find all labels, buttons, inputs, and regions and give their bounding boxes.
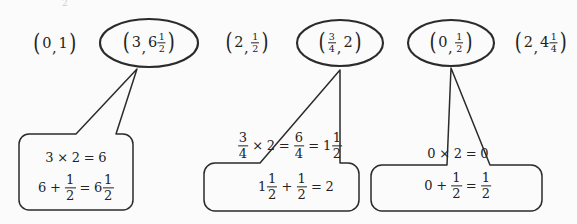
pair-comma: , xyxy=(244,41,250,56)
callout-3-line-1: 0 × 2 = 0 xyxy=(427,146,489,161)
right-paren: ) xyxy=(466,33,473,54)
expr-token: 0 xyxy=(424,179,432,194)
expr-token: 0 xyxy=(427,146,435,161)
pair-3q-2: ( 34 , 2 ) xyxy=(317,32,363,53)
plus-sign: + xyxy=(433,179,451,194)
pair-0-1-x: 0 xyxy=(42,36,52,51)
expr-token: 112 xyxy=(323,131,343,160)
fraction-one-half: 12 xyxy=(65,173,75,202)
left-paren: ( xyxy=(225,33,232,54)
callout-3-line-2: 0 + 12 = 12 xyxy=(424,171,492,200)
expr-token: 6 xyxy=(98,150,106,165)
multiplication-sign: × xyxy=(249,139,267,154)
fraction-three-quarters: 34 xyxy=(238,131,248,160)
right-paren: ) xyxy=(168,33,175,54)
pair-3-6half: ( 3 , 612 ) xyxy=(121,32,176,53)
expr-token: 2 xyxy=(326,180,334,195)
callout-2-line-1: 34 × 2 = 64 = 112 xyxy=(237,131,343,160)
left-paren: ( xyxy=(318,33,325,54)
equals-sign: = xyxy=(305,139,323,154)
expr-token: 3 xyxy=(45,150,53,165)
pair-2-4quart-y: 414 xyxy=(540,32,559,53)
pair-2-4quart-x: 2 xyxy=(523,36,533,51)
equals-sign: = xyxy=(275,139,293,154)
pair-comma: , xyxy=(533,41,539,56)
pair-3-6half-x: 3 xyxy=(131,36,141,51)
fraction-one-half: 12 xyxy=(481,171,491,200)
callout-1-line-1: 3 × 2 = 6 xyxy=(45,150,107,165)
multiplication-sign: × xyxy=(436,146,454,161)
fraction-one-half: 12 xyxy=(297,172,307,201)
expr-token: 2 xyxy=(72,150,80,165)
multiplication-sign: × xyxy=(54,150,72,165)
right-paren: ) xyxy=(70,33,77,54)
fraction-six-fourths: 64 xyxy=(294,131,304,160)
fraction-one-half: 12 xyxy=(103,173,113,202)
left-paren: ( xyxy=(123,33,130,54)
equals-sign: = xyxy=(462,146,480,161)
equals-sign: = xyxy=(462,179,480,194)
expr-token: 6 xyxy=(38,181,46,196)
pair-0-half: ( 0 , 12 ) xyxy=(428,32,474,53)
equals-sign: = xyxy=(76,181,94,196)
pair-0-1: ( 0 , 1 ) xyxy=(32,33,78,54)
pair-comma: , xyxy=(141,41,147,56)
equals-sign: = xyxy=(80,150,98,165)
fraction-one-half: 12 xyxy=(451,171,461,200)
pair-comma: , xyxy=(337,41,343,56)
expr-token: 0 xyxy=(480,146,488,161)
pair-2-half: ( 2 , 12 ) xyxy=(224,32,270,53)
pair-3q-2-x: 34 xyxy=(327,32,337,53)
pair-0-1-y: 1 xyxy=(58,36,68,51)
fraction-one-quarter: 14 xyxy=(550,32,558,53)
fraction-one-half: 12 xyxy=(332,131,342,160)
plus-sign: + xyxy=(46,181,64,196)
pair-comma: , xyxy=(52,41,58,56)
fraction-one-half: 12 xyxy=(267,172,277,201)
fraction-one-half: 12 xyxy=(455,32,463,53)
pair-2-4quart: ( 2 , 414 ) xyxy=(513,32,568,53)
fraction-one-half: 12 xyxy=(158,32,166,53)
right-paren: ) xyxy=(560,33,567,54)
right-paren: ) xyxy=(262,33,269,54)
fraction-one-half: 12 xyxy=(251,32,259,53)
pair-2-half-x: 2 xyxy=(234,36,244,51)
left-paren: ( xyxy=(429,33,436,54)
pair-2-half-y: 12 xyxy=(250,32,260,53)
expr-token: 2 xyxy=(267,139,275,154)
callout-1-line-2: 6 + 12 = 612 xyxy=(38,173,114,202)
left-paren: ( xyxy=(33,33,40,54)
pair-comma: , xyxy=(448,41,454,56)
pair-0-half-y: 12 xyxy=(454,32,464,53)
fraction-three-quarters: 34 xyxy=(328,32,336,53)
callout-2-line-2: 112 + 12 = 2 xyxy=(258,172,334,201)
figure-canvas: 2 ( 0 , 1 ) ( 3 , 612 xyxy=(0,0,577,224)
plus-sign: + xyxy=(278,180,296,195)
expr-token: 612 xyxy=(94,173,114,202)
left-paren: ( xyxy=(515,33,522,54)
pair-0-half-x: 0 xyxy=(438,36,448,51)
expr-token: 2 xyxy=(454,146,462,161)
equals-sign: = xyxy=(307,180,325,195)
pair-3-6half-y: 612 xyxy=(148,32,167,53)
right-paren: ) xyxy=(355,33,362,54)
pair-3q-2-y: 2 xyxy=(343,36,353,51)
expr-token: 112 xyxy=(258,172,278,201)
